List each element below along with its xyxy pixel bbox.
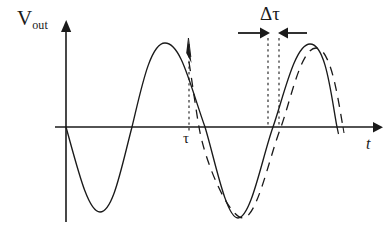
waveform-figure: Vout t τ Δτ	[0, 0, 391, 228]
delayed-waveform	[189, 48, 344, 218]
reference-waveform	[66, 43, 339, 218]
axes-group	[55, 20, 383, 222]
arrow-left-icon	[278, 27, 288, 38]
arrow-up-icon	[61, 20, 71, 32]
tau-label: τ	[183, 131, 189, 146]
y-axis-label-subscript: out	[32, 18, 48, 32]
arrow-right-icon	[260, 27, 270, 38]
y-axis-label-main: V	[17, 6, 32, 30]
arrow-right-icon	[373, 122, 383, 132]
delta-tau-label: Δτ	[260, 4, 280, 23]
y-axis-label: Vout	[17, 8, 48, 31]
waveform-plot	[0, 0, 391, 228]
x-axis-label: t	[366, 136, 370, 152]
